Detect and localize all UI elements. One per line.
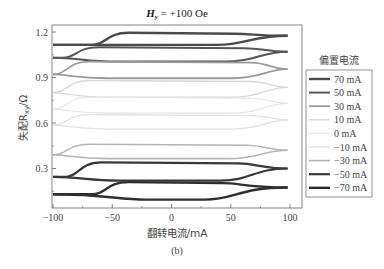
hysteresis-chart: −100−500501000.30.60.91.2 Hy = +100 Oe 翻…	[0, 0, 384, 269]
hysteresis-curve	[53, 115, 288, 126]
y-axis-label: 失配Rxy/Ω	[17, 95, 31, 142]
y-tick-label: 0.9	[36, 72, 49, 83]
hysteresis-curve	[53, 150, 288, 158]
legend-label: 50 mA	[334, 87, 362, 98]
hysteresis-curve	[53, 36, 288, 45]
x-tick-label: 0	[169, 212, 174, 223]
hysteresis-curve	[53, 169, 288, 181]
legend-label: −30 mA	[334, 155, 368, 166]
plot-series-group	[53, 33, 288, 200]
hysteresis-curve	[53, 97, 288, 109]
y-tick-label: 0.6	[36, 118, 49, 129]
hysteresis-curve	[53, 182, 288, 194]
figure-caption: (b)	[171, 245, 183, 257]
hysteresis-curve	[53, 103, 288, 113]
legend-label: 30 mA	[334, 101, 362, 112]
chart-title: Hy = +100 Oe	[145, 7, 208, 21]
legend-label: 0 mA	[334, 128, 357, 139]
hysteresis-curve	[53, 144, 288, 155]
hysteresis-curve	[53, 81, 288, 93]
legend-label: −10 mA	[334, 142, 368, 153]
hysteresis-curve	[53, 87, 288, 97]
legend-label: −70 mA	[334, 182, 368, 193]
x-tick-label: −50	[104, 212, 120, 223]
legend-label: 10 mA	[334, 114, 362, 125]
x-tick-label: 100	[283, 212, 298, 223]
hysteresis-curve	[53, 69, 288, 78]
legend-label: −50 mA	[334, 169, 368, 180]
x-tick-label: −100	[43, 212, 64, 223]
hysteresis-curve	[53, 52, 288, 62]
legend-title: 偏置电流	[319, 54, 359, 66]
y-tick-label: 0.3	[36, 163, 49, 174]
x-tick-label: 50	[226, 212, 236, 223]
hysteresis-curve	[53, 47, 288, 58]
legend-label: 70 mA	[334, 74, 362, 85]
hysteresis-curve	[53, 62, 288, 75]
x-axis-label: 翻转电流/mA	[147, 227, 209, 239]
hysteresis-curve	[53, 120, 288, 129]
y-tick-label: 1.2	[36, 27, 49, 38]
